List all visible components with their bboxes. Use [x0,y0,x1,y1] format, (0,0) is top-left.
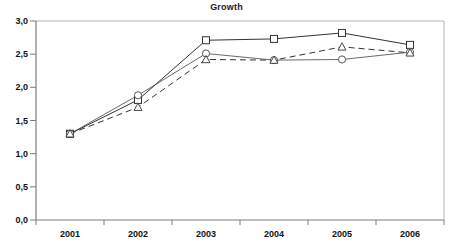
y-tick-label: 0,0 [2,215,28,225]
marker-square [203,37,210,44]
plot-area [0,0,453,248]
y-tick-label: 0,5 [2,182,28,192]
marker-circle [134,92,141,99]
marker-circle [338,56,345,63]
y-tick-label: 2,5 [2,49,28,59]
marker-square [339,29,346,36]
series-line-triangle [70,47,410,134]
x-tick-marks [36,220,444,225]
x-tick-label-2006: 2006 [388,229,432,239]
marker-square [271,35,278,42]
y-tick-marks [30,21,36,220]
y-tick-label: 3,0 [2,16,28,26]
marker-triangle [134,103,142,110]
series-lines [70,33,410,134]
y-tick-label: 2,0 [2,82,28,92]
x-tick-label-2005: 2005 [320,229,364,239]
y-tick-label: 1,0 [2,149,28,159]
x-tick-label-2004: 2004 [252,229,296,239]
marker-triangle [202,55,210,62]
series-markers [66,29,414,137]
y-tick-label: 1,5 [2,116,28,126]
marker-triangle [338,43,346,50]
growth-line-chart: Growth 0,00,51,01,52,02,53,0 20012002200… [0,0,453,248]
x-tick-label-2003: 2003 [184,229,228,239]
series-line-circle [70,52,410,134]
x-tick-label-2001: 2001 [48,229,92,239]
marker-square [407,41,414,48]
x-tick-label-2002: 2002 [116,229,160,239]
